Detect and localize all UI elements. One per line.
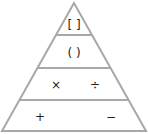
parentheses-symbol: ( ) — [67, 47, 80, 59]
plus-symbol: + — [35, 111, 45, 123]
multiply-symbol: × — [51, 79, 61, 91]
divide-symbol: ÷ — [90, 79, 100, 91]
minus-symbol: − — [106, 111, 116, 123]
brackets-symbol: [ ] — [67, 19, 80, 31]
